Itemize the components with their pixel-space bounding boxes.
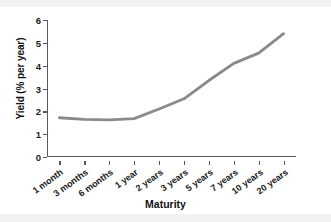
x-tick-label-text: 5 years <box>184 167 215 193</box>
x-tick-label-text: 2 years <box>134 167 165 193</box>
x-tick-mark <box>84 161 85 165</box>
y-tick-label: 4 <box>36 60 41 71</box>
y-tick-label: 6 <box>36 15 41 26</box>
x-tick-label-text: 3 years <box>159 167 190 193</box>
plot-area: 0123456 1 month3 months6 months1 year2 y… <box>47 20 296 157</box>
x-tick-mark <box>259 161 260 165</box>
y-tick-label: 3 <box>36 83 41 94</box>
y-tick-label: 2 <box>36 106 41 117</box>
y-axis-title-text: Yield (% per year) <box>16 38 27 120</box>
chart-figure: Yield (% per year) 0123456 1 month3 mont… <box>0 0 331 222</box>
x-tick-mark <box>284 161 285 165</box>
top-edge-band <box>0 0 331 7</box>
x-axis-title: Maturity <box>0 198 331 210</box>
y-tick-mark <box>43 157 47 158</box>
y-tick-label: 0 <box>36 152 41 163</box>
x-tick-mark <box>184 161 185 165</box>
x-axis-title-text: Maturity <box>145 198 186 210</box>
x-tick-mark <box>159 161 160 165</box>
bottom-edge-band <box>0 214 331 222</box>
x-tick-mark <box>209 161 210 165</box>
x-tick-mark <box>109 161 110 165</box>
yield-curve-line <box>59 34 283 120</box>
y-tick-label: 5 <box>36 37 41 48</box>
x-tick-mark <box>234 161 235 165</box>
yield-curve-series <box>47 20 296 157</box>
y-tick-label: 1 <box>36 129 41 140</box>
y-axis-title: Yield (% per year) <box>14 0 28 157</box>
x-tick-mark <box>134 161 135 165</box>
x-tick-mark <box>59 161 60 165</box>
